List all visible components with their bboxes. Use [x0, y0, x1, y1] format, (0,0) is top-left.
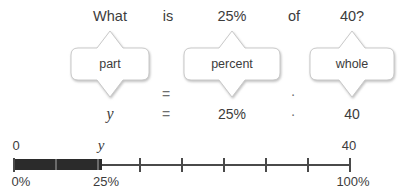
equation-term: 25% [197, 104, 267, 124]
problem-word: 40? [307, 6, 397, 26]
formula-operator: = [146, 86, 186, 102]
number-line-tick [97, 159, 99, 170]
number-line-tick [13, 158, 15, 172]
number-line-tick [139, 158, 141, 172]
number-line-tick [265, 158, 267, 172]
equation-row: y=25%·40 [0, 104, 400, 126]
formula-operator: · [273, 86, 313, 102]
number-line-bottom-label: 0% [0, 174, 51, 190]
callout-label: percent [184, 54, 280, 74]
callout-label: whole [310, 54, 394, 74]
equation-term: = [131, 104, 201, 124]
callout-label: part [71, 54, 149, 74]
number-line-tick [181, 158, 183, 172]
number-line-tick [349, 158, 351, 172]
number-line: 0y400%25%100% [0, 138, 400, 193]
number-line-top-label: 0 [0, 138, 41, 153]
number-line-filled-bar [14, 159, 102, 170]
formula-callout: whole [310, 30, 394, 98]
number-line-bottom-label: 100% [323, 174, 383, 190]
number-line-top-label: y [76, 138, 126, 153]
number-line-tick [55, 159, 57, 170]
word-problem-row: Whatis25%of40? [0, 6, 400, 28]
formula-callout: part [71, 30, 149, 98]
number-line-tick [307, 158, 309, 172]
number-line-top-label: 40 [324, 138, 374, 153]
number-line-bottom-label: 25% [76, 174, 136, 190]
equation-term: 40 [317, 104, 387, 124]
number-line-tick [223, 158, 225, 172]
formula-callout-row: partpercentwhole=· [0, 30, 400, 98]
formula-callout: percent [184, 30, 280, 98]
